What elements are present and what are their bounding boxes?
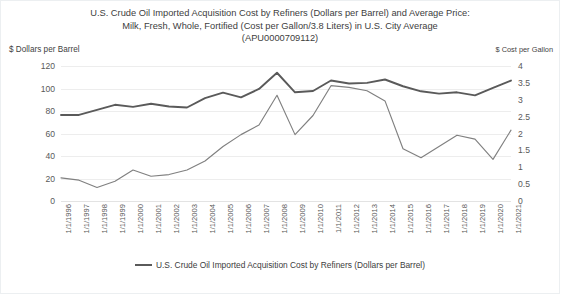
x-tick-label: 1/1/2018 bbox=[460, 204, 469, 234]
x-tick-label: 1/1/1997 bbox=[82, 204, 91, 234]
x-tick-label: 1/1/2002 bbox=[172, 204, 181, 234]
right-tick-label: 3.5 bbox=[518, 78, 530, 88]
x-tick-label: 1/1/1999 bbox=[118, 204, 127, 234]
x-tick-label: 1/1/2007 bbox=[262, 204, 271, 234]
legend-item-label: U.S. Crude Oil Imported Acquisition Cost… bbox=[156, 260, 425, 270]
right-tick-label: 4 bbox=[518, 61, 523, 71]
chart-title-line-1: U.S. Crude Oil Imported Acquisition Cost… bbox=[45, 7, 515, 20]
left-tick-label: 60 bbox=[45, 129, 55, 139]
chart-container: U.S. Crude Oil Imported Acquisition Cost… bbox=[0, 0, 560, 294]
chart-title: U.S. Crude Oil Imported Acquisition Cost… bbox=[45, 7, 515, 45]
left-axis-caption: $ Dollars per Barrel bbox=[9, 45, 80, 54]
x-tick-label: 1/1/2015 bbox=[406, 204, 415, 234]
x-tick-label: 1/1/2006 bbox=[244, 204, 253, 234]
left-tick-label: 40 bbox=[45, 151, 55, 161]
left-tick-label: 80 bbox=[45, 106, 55, 116]
right-tick-label: 1 bbox=[518, 162, 523, 172]
x-tick-label: 1/1/1996 bbox=[64, 204, 73, 234]
right-tick-label: 0.5 bbox=[518, 179, 530, 189]
left-tick-label: 0 bbox=[50, 196, 55, 206]
left-tick-label: 120 bbox=[41, 61, 55, 71]
x-tick-label: 1/1/2021 bbox=[514, 204, 523, 234]
x-tick-label: 1/1/2000 bbox=[136, 204, 145, 234]
legend-line-swatch bbox=[135, 264, 152, 266]
x-tick-label: 1/1/2001 bbox=[154, 204, 163, 234]
right-tick-label: 3 bbox=[518, 95, 523, 105]
gridline bbox=[61, 201, 511, 202]
x-tick-label: 1/1/2019 bbox=[478, 204, 487, 234]
series-line-2 bbox=[61, 73, 511, 115]
x-axis-ticks: 1/1/19961/1/19971/1/19981/1/19991/1/2000… bbox=[61, 204, 511, 252]
left-tick-label: 20 bbox=[45, 174, 55, 184]
series-line-1 bbox=[61, 86, 511, 188]
right-tick-label: 1.5 bbox=[518, 145, 530, 155]
x-tick-label: 1/1/2014 bbox=[388, 204, 397, 234]
x-tick-label: 1/1/2010 bbox=[316, 204, 325, 234]
left-tick-label: 100 bbox=[41, 84, 55, 94]
right-axis-caption: $ Cost per Gallon bbox=[495, 45, 553, 54]
x-tick-label: 1/1/2011 bbox=[334, 204, 343, 233]
right-tick-label: 2 bbox=[518, 129, 523, 139]
chart-title-line-2: Milk, Fresh, Whole, Fortified (Cost per … bbox=[45, 20, 515, 33]
x-tick-label: 1/1/2009 bbox=[298, 204, 307, 234]
x-tick-label: 1/1/2008 bbox=[280, 204, 289, 234]
x-tick-label: 1/1/2013 bbox=[370, 204, 379, 234]
series-lines bbox=[61, 66, 511, 201]
x-tick-label: 1/1/2012 bbox=[352, 204, 361, 234]
right-tick-label: 2.5 bbox=[518, 112, 530, 122]
chart-title-line-3: (APU0000709112) bbox=[45, 32, 515, 45]
x-tick-label: 1/1/1998 bbox=[100, 204, 109, 234]
x-tick-label: 1/1/2004 bbox=[208, 204, 217, 234]
x-tick-label: 1/1/2005 bbox=[226, 204, 235, 234]
plot-area: 020406080100120 00.511.522.533.54 bbox=[61, 66, 511, 201]
chart-legend: U.S. Crude Oil Imported Acquisition Cost… bbox=[1, 260, 559, 270]
x-tick-label: 1/1/2003 bbox=[190, 204, 199, 234]
x-tick-label: 1/1/2016 bbox=[424, 204, 433, 234]
x-tick-label: 1/1/2017 bbox=[442, 204, 451, 234]
x-tick-label: 1/1/2020 bbox=[496, 204, 505, 234]
